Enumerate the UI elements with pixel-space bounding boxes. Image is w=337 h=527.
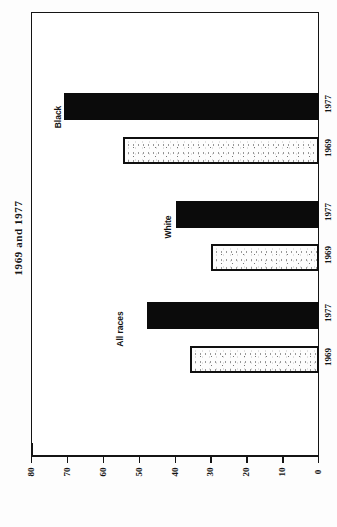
axis-end-stub — [31, 443, 33, 457]
chart-title: 1969 and 1977 — [12, 158, 24, 318]
year-label-all-races-1977: 1977 — [323, 296, 333, 330]
axis-tick-label-60: 60 — [98, 459, 108, 485]
axis-tick-label-70: 70 — [62, 459, 72, 485]
bar-white-1977 — [176, 201, 320, 228]
axis-tick-label-40: 40 — [170, 459, 180, 485]
plot-area — [31, 12, 319, 456]
value-axis: 80706050403020100 — [31, 456, 319, 457]
axis-tick-label-50: 50 — [134, 459, 144, 485]
bar-white-1969 — [211, 244, 319, 271]
group-label-all-races: All races — [115, 301, 125, 357]
year-label-white-1977: 1977 — [323, 195, 333, 229]
axis-tick-label-20: 20 — [241, 459, 251, 485]
axis-tick-label-80: 80 — [26, 459, 36, 485]
axis-tick-label-0: 0 — [313, 459, 323, 485]
chart-page: 1969 and 1977 80706050403020100 19771969… — [0, 0, 337, 527]
axis-tick-label-30: 30 — [205, 459, 215, 485]
bar-black-1977 — [64, 93, 319, 120]
bar-all-races-1969 — [190, 346, 319, 373]
year-label-black-1977: 1977 — [323, 87, 333, 121]
group-label-white: White — [163, 199, 173, 255]
year-label-white-1969: 1969 — [323, 238, 333, 272]
year-label-black-1969: 1969 — [323, 131, 333, 165]
group-label-black: Black — [53, 89, 63, 145]
bar-black-1969 — [123, 137, 319, 164]
year-label-all-races-1969: 1969 — [323, 340, 333, 374]
bar-all-races-1977 — [147, 302, 319, 329]
axis-tick-label-10: 10 — [277, 459, 287, 485]
